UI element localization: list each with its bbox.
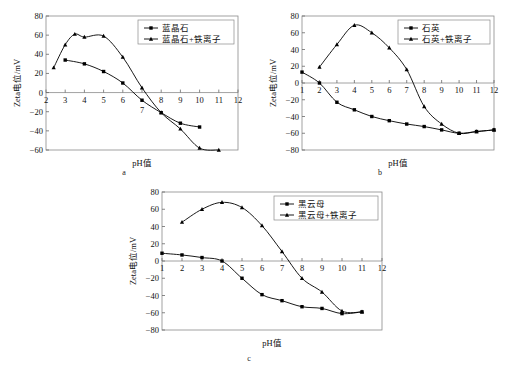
data-curve: [54, 34, 219, 150]
legend-label: 石英: [422, 23, 440, 33]
data-curve: [180, 220, 184, 224]
data-marker: [320, 307, 323, 310]
data-curve: [440, 122, 444, 126]
data-marker: [300, 305, 303, 308]
x-tick-label: 6: [260, 263, 264, 273]
x-tick-label: 12: [378, 263, 387, 273]
data-marker: [160, 252, 163, 255]
y-tick-label: 60: [35, 30, 44, 40]
data-marker: [83, 62, 86, 65]
data-marker: [240, 277, 243, 280]
x-tick-label: 5: [370, 85, 374, 95]
data-marker: [409, 26, 412, 29]
x-axis-title: pH值: [132, 158, 151, 168]
x-tick-label: 2: [317, 85, 321, 95]
x-tick-label: 10: [455, 85, 464, 95]
y-tick-label: 40: [151, 222, 160, 232]
y-tick-label: −60: [146, 308, 159, 318]
data-curve: [370, 30, 374, 34]
x-tick-label: 5: [240, 263, 244, 273]
x-tick-label: 8: [159, 95, 163, 105]
data-marker: [140, 99, 143, 102]
x-tick-label: 2: [44, 95, 48, 105]
legend-label: 石英+铁离子: [422, 34, 472, 44]
x-tick-label: 4: [352, 85, 357, 95]
x-axis-title: pH值: [262, 338, 281, 348]
y-axis-title: Zeta电位/mV: [128, 236, 138, 285]
legend: 蓝晶石蓝晶石+铁离子: [138, 20, 234, 44]
y-tick-label: 80: [291, 11, 300, 21]
data-marker: [370, 115, 373, 118]
chart-panel-a: −60−40−2002040608023456789101112pH值Zeta电…: [0, 2, 248, 180]
y-axis-title: Zeta电位/mV: [268, 58, 278, 107]
y-tick-label: 20: [35, 68, 44, 78]
data-marker: [200, 256, 203, 259]
y-tick-label: 40: [35, 49, 44, 59]
y-tick-label: −80: [146, 325, 159, 335]
data-marker: [179, 122, 182, 125]
x-tick-label: 3: [63, 95, 67, 105]
y-tick-label: 20: [291, 61, 300, 71]
data-marker: [388, 119, 391, 122]
y-tick-label: −20: [30, 107, 43, 117]
legend: 黑云母黑云母+铁离子: [274, 196, 378, 220]
y-tick-label: −60: [30, 145, 43, 155]
x-tick-label: 6: [121, 95, 125, 105]
panel-caption-a: a: [0, 168, 248, 177]
x-tick-label: 5: [101, 95, 105, 105]
x-tick-label: 8: [300, 263, 304, 273]
data-marker: [422, 125, 425, 128]
data-marker: [353, 108, 356, 111]
y-tick-label: 80: [151, 187, 160, 197]
y-tick-label: −40: [286, 112, 299, 122]
x-tick-label: 9: [178, 95, 182, 105]
x-tick-label: 10: [195, 95, 204, 105]
y-tick-label: −20: [286, 95, 299, 105]
data-curve: [198, 146, 202, 150]
panel-caption-b: b: [256, 168, 504, 177]
series-2: [52, 32, 221, 152]
series-1: [300, 70, 495, 135]
plot-a: −60−40−2002040608023456789101112pH值Zeta电…: [0, 2, 248, 170]
y-tick-label: −80: [286, 145, 299, 155]
y-tick-label: 0: [39, 88, 43, 98]
x-tick-label: 12: [234, 95, 243, 105]
data-curve: [320, 290, 324, 294]
data-marker: [121, 81, 124, 84]
x-tick-label: 11: [472, 85, 480, 95]
data-marker: [260, 293, 263, 296]
data-marker: [149, 26, 152, 29]
x-tick-label: 1: [300, 85, 304, 95]
data-marker: [102, 70, 105, 73]
data-marker: [64, 58, 67, 61]
x-tick-label: 9: [440, 85, 444, 95]
x-tick-label: 8: [422, 85, 426, 95]
data-curve: [52, 65, 56, 69]
x-tick-label: 11: [358, 263, 366, 273]
panel-caption-c: c: [104, 354, 394, 363]
series-1: [64, 58, 202, 128]
data-marker: [198, 125, 201, 128]
legend-label: 黑云母: [298, 199, 325, 209]
data-marker: [318, 81, 321, 84]
y-tick-label: 60: [151, 204, 160, 214]
data-marker: [335, 101, 338, 104]
y-tick-label: −40: [30, 126, 43, 136]
y-tick-label: 0: [155, 256, 159, 266]
x-tick-label: 10: [338, 263, 347, 273]
x-tick-label: 1: [160, 263, 164, 273]
y-tick-label: −60: [286, 128, 299, 138]
data-marker: [220, 259, 223, 262]
data-curve: [65, 60, 199, 127]
data-marker: [300, 70, 303, 73]
x-tick-label: 6: [387, 85, 391, 95]
y-tick-label: −20: [146, 273, 159, 283]
data-marker: [280, 299, 283, 302]
y-tick-label: 80: [35, 11, 44, 21]
x-tick-label: 4: [82, 95, 87, 105]
legend-label: 蓝晶石+铁离子: [162, 34, 221, 44]
x-tick-label: 7: [405, 85, 409, 95]
y-tick-label: 60: [291, 28, 300, 38]
data-marker: [180, 253, 183, 256]
x-tick-label: 11: [215, 95, 223, 105]
